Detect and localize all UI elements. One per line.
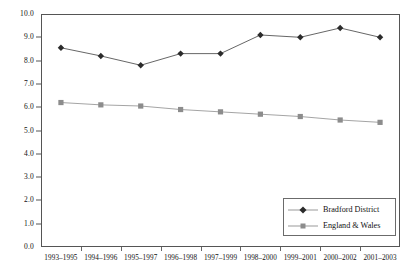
chart-container: 0.01.02.03.04.05.06.07.08.09.010.0 1993–…	[0, 0, 416, 272]
x-tick-label: 1995–1997	[124, 254, 157, 263]
y-tick-label: 10.0	[20, 10, 34, 18]
y-tick-label: 6.0	[24, 103, 34, 111]
x-tick-label: 1999–2001	[284, 254, 317, 263]
series-line	[61, 28, 380, 65]
y-axis: 0.01.02.03.04.05.06.07.08.09.010.0	[0, 0, 41, 272]
x-tick-label: 1996–1998	[164, 254, 197, 263]
data-point-diamond	[377, 34, 383, 40]
data-point-diamond	[297, 34, 303, 40]
x-tick-mark	[280, 247, 281, 251]
legend-label-bradford-district: Bradford District	[318, 205, 379, 215]
data-point-square	[377, 120, 382, 125]
x-axis-ticks	[41, 247, 400, 252]
data-point-square	[58, 100, 63, 105]
x-tick-mark	[240, 247, 241, 251]
x-tick-label: 1997–1999	[204, 254, 237, 263]
y-tick-label: 9.0	[24, 33, 34, 41]
data-point-diamond	[98, 53, 104, 59]
x-tick-label: 2001–2003	[363, 254, 396, 263]
x-tick-label: 2000–2002	[324, 254, 357, 263]
data-point-diamond	[138, 62, 144, 68]
y-tick-label: 4.0	[24, 150, 34, 158]
legend-item-bradford-district[interactable]: Bradford District	[288, 202, 391, 218]
legend-item-england-wales[interactable]: England & Wales	[288, 218, 391, 234]
y-tick-label: 7.0	[24, 80, 34, 88]
data-point-diamond	[337, 25, 343, 31]
data-point-square	[338, 117, 343, 122]
x-axis-labels: 1993–19951994–19961995–19971996–19981997…	[41, 254, 400, 268]
x-tick-mark	[121, 247, 122, 251]
y-tick-label: 2.0	[24, 196, 34, 204]
data-point-diamond	[217, 50, 223, 56]
data-point-square	[218, 109, 223, 114]
data-point-diamond	[257, 32, 263, 38]
x-tick-label: 1993–1995	[44, 254, 77, 263]
y-tick-label: 5.0	[24, 127, 34, 135]
legend-label-england-wales: England & Wales	[318, 221, 380, 231]
y-tick-label: 1.0	[24, 220, 34, 228]
x-tick-mark	[360, 247, 361, 251]
x-tick-label: 1998–2000	[244, 254, 277, 263]
x-tick-mark	[201, 247, 202, 251]
data-point-square	[178, 107, 183, 112]
data-point-square	[258, 112, 263, 117]
data-point-square	[298, 114, 303, 119]
y-tick-label: 3.0	[24, 173, 34, 181]
data-point-square	[138, 103, 143, 108]
x-tick-mark	[320, 247, 321, 251]
data-point-diamond	[177, 50, 183, 56]
x-tick-label: 1994–1996	[84, 254, 117, 263]
y-tick-label: 0.0	[24, 243, 34, 251]
legend-marker-diamond-icon	[288, 204, 318, 216]
y-tick-label: 8.0	[24, 57, 34, 65]
legend-marker-square-icon	[288, 220, 318, 232]
data-point-diamond	[58, 45, 64, 51]
x-tick-mark	[81, 247, 82, 251]
chart-legend: Bradford District England & Wales	[283, 198, 396, 236]
data-point-square	[98, 102, 103, 107]
x-tick-mark	[161, 247, 162, 251]
